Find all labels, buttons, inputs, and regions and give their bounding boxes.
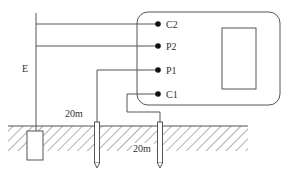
ground-hatch [8, 126, 248, 151]
terminal-p2-label: P2 [166, 41, 177, 52]
terminal-c2-label: C2 [166, 19, 178, 30]
terminal-p2-dot [155, 43, 161, 49]
instrument-display [222, 28, 256, 89]
terminal-c1-label: C1 [166, 89, 178, 100]
c1-wire [127, 94, 160, 122]
terminal-p1-label: P1 [166, 65, 177, 76]
earth-electrode [27, 131, 43, 160]
distance-label-p1-c1: 20m [133, 143, 151, 154]
terminal-c1-dot [155, 91, 161, 97]
p1-spike [95, 122, 100, 168]
terminal-c2-dot [155, 21, 161, 27]
ground [8, 126, 248, 151]
earth-tester-diagram: C2 P2 P1 C1 E 20m 20m [0, 0, 291, 173]
terminal-p1-dot [155, 67, 161, 73]
c1-spike [158, 122, 163, 168]
distance-label-e-p1: 20m [65, 108, 83, 119]
earth-label: E [22, 63, 28, 74]
